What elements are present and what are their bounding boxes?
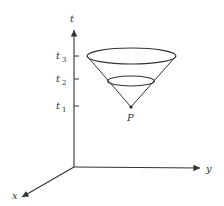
svg-text:3: 3 [62,56,66,64]
svg-text:t: t [56,50,61,61]
x-axis [22,167,74,197]
y-axis [74,167,200,168]
light-cone-diagram: t y x t 3 t 2 t 1 P [0,0,224,206]
t-axis-label: t [70,13,75,24]
svg-text:1: 1 [62,106,66,114]
apex-label: P [126,112,134,123]
svg-text:t: t [56,73,61,84]
apex-point [129,105,132,108]
x-axis-label: x [12,190,18,201]
tick-label-t2: t 2 [56,73,66,87]
tick-label-t3: t 3 [56,50,66,64]
cone-top-ellipse [87,48,176,64]
svg-text:2: 2 [62,79,66,87]
svg-text:t: t [56,100,61,111]
y-axis-label: y [205,163,212,174]
tick-label-t1: t 1 [56,100,66,114]
cone-mid-ellipse [108,76,155,86]
